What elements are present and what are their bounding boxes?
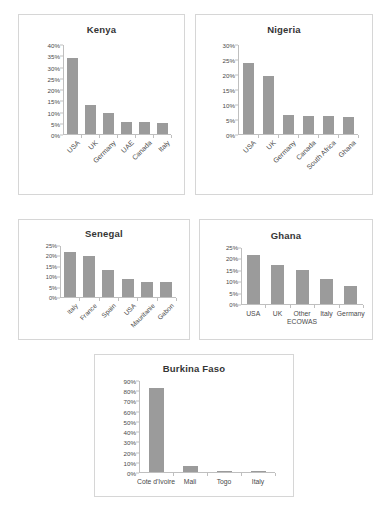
bar: [251, 471, 266, 472]
y-tick-label: 10%: [223, 102, 235, 109]
y-tick-mark: [60, 45, 63, 46]
y-tick-label: 40%: [48, 42, 60, 49]
x-axis-line: [241, 304, 363, 305]
y-tick-mark: [238, 305, 241, 306]
y-tick-label: 10%: [124, 459, 136, 466]
x-tick-mark: [173, 473, 174, 476]
y-tick-mark: [136, 391, 139, 392]
x-tick-label: USA: [122, 302, 137, 317]
chart-panel-kenya: Kenya 0%5%10%15%20%25%30%35%40%USAUKGerm…: [18, 14, 185, 195]
y-tick-label: 60%: [124, 408, 136, 415]
bar: [183, 466, 198, 472]
y-tick-mark: [136, 381, 139, 382]
x-tick-label: UAE: [120, 139, 135, 154]
y-tick-mark: [235, 60, 238, 61]
y-tick-mark: [136, 421, 139, 422]
y-tick-mark: [136, 452, 139, 453]
y-tick-label: 90%: [124, 378, 136, 385]
bar: [149, 388, 164, 472]
plot-area-ghana: 0%5%10%15%20%25%USAUKOther ECOWASItalyGe…: [241, 248, 363, 305]
x-tick-mark: [241, 473, 242, 476]
bar: [139, 122, 150, 134]
y-tick-label: 15%: [226, 268, 238, 274]
x-tick-mark: [265, 305, 266, 308]
x-tick-mark: [171, 135, 172, 138]
y-tick-label: 20%: [226, 256, 238, 262]
y-tick-label: 25%: [223, 57, 235, 64]
y-tick-label: 20%: [48, 87, 60, 94]
chart-panel-nigeria: Nigeria 0%5%10%15%20%25%30%USAUKGermanyC…: [195, 14, 373, 195]
bar: [247, 255, 260, 304]
y-tick-mark: [57, 266, 60, 267]
y-tick-label: 30%: [223, 42, 235, 49]
x-tick-mark: [99, 135, 100, 138]
y-axis-line: [60, 246, 61, 298]
x-tick-mark: [79, 298, 80, 301]
y-tick-label: 5%: [49, 285, 57, 291]
y-tick-label: 10%: [226, 279, 238, 285]
y-tick-mark: [235, 120, 238, 121]
bar: [141, 282, 153, 297]
chart-title-kenya: Kenya: [19, 24, 184, 35]
y-tick-mark: [60, 90, 63, 91]
y-tick-label: 30%: [124, 439, 136, 446]
x-tick-mark: [275, 473, 276, 476]
y-tick-mark: [60, 56, 63, 57]
y-tick-mark: [238, 259, 241, 260]
y-tick-mark: [136, 462, 139, 463]
y-tick-mark: [136, 473, 139, 474]
bar: [102, 270, 114, 297]
bar: [343, 117, 354, 134]
bar: [85, 105, 96, 134]
bar: [67, 58, 78, 134]
chart-title-burkina-faso: Burkina Faso: [95, 363, 293, 374]
x-tick-mark: [135, 135, 136, 138]
y-tick-mark: [60, 67, 63, 68]
y-tick-label: 25%: [48, 75, 60, 82]
bar: [157, 123, 168, 134]
y-tick-label: 80%: [124, 388, 136, 395]
bar: [83, 256, 95, 297]
y-tick-label: 5%: [226, 117, 235, 124]
y-tick-mark: [57, 256, 60, 257]
y-tick-mark: [60, 112, 63, 113]
x-tick-label: Italy: [157, 139, 171, 153]
x-tick-mark: [81, 135, 82, 138]
y-tick-label: 20%: [223, 72, 235, 79]
chart-title-ghana: Ghana: [200, 230, 372, 241]
bar: [296, 270, 309, 304]
x-tick-mark: [118, 298, 119, 301]
y-tick-mark: [235, 135, 238, 136]
bar: [217, 471, 232, 472]
x-tick-mark: [358, 135, 359, 138]
x-tick-label: France: [78, 302, 97, 321]
x-tick-mark: [137, 298, 138, 301]
y-tick-mark: [235, 45, 238, 46]
y-tick-label: 5%: [229, 291, 238, 297]
x-tick-mark: [207, 473, 208, 476]
y-tick-mark: [136, 411, 139, 412]
y-tick-label: 15%: [46, 264, 57, 270]
x-tick-label: Germany: [334, 310, 368, 318]
x-tick-mark: [278, 135, 279, 138]
y-tick-label: 25%: [46, 243, 57, 249]
y-tick-label: 0%: [229, 302, 238, 308]
y-tick-mark: [57, 298, 60, 299]
chart-panel-ghana: Ghana 0%5%10%15%20%25%USAUKOther ECOWASI…: [199, 219, 373, 340]
y-tick-mark: [57, 277, 60, 278]
y-tick-label: 30%: [48, 64, 60, 71]
x-tick-mark: [157, 298, 158, 301]
y-tick-mark: [238, 270, 241, 271]
bar: [103, 113, 114, 134]
y-tick-mark: [60, 135, 63, 136]
y-tick-label: 20%: [46, 253, 57, 259]
y-tick-mark: [57, 287, 60, 288]
y-tick-label: 15%: [48, 98, 60, 105]
plot-area-kenya: 0%5%10%15%20%25%30%35%40%USAUKGermanyUAE…: [63, 45, 171, 135]
y-tick-label: 25%: [226, 245, 238, 251]
x-tick-mark: [363, 305, 364, 308]
x-tick-mark: [314, 305, 315, 308]
y-tick-mark: [60, 123, 63, 124]
y-tick-label: 0%: [127, 470, 136, 477]
y-tick-mark: [60, 78, 63, 79]
